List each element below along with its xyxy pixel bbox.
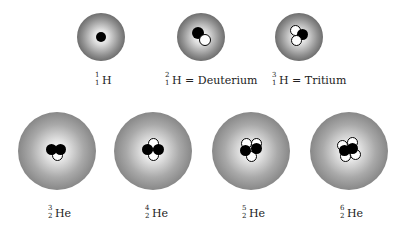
proton: [142, 144, 153, 155]
neutron: [291, 35, 302, 46]
label-h1: 11H: [94, 74, 112, 87]
atom-he5: [212, 112, 290, 190]
atom-h3: [275, 13, 323, 61]
atom-he6: [310, 112, 388, 190]
label-he5: 52He: [241, 207, 265, 220]
atom-he4: [114, 112, 192, 190]
proton: [55, 144, 66, 155]
label-he4: 42He: [144, 207, 168, 220]
proton: [347, 143, 358, 154]
label-h2-deuterium: 21H = Deuterium: [164, 74, 257, 87]
label-h3-tritium: 31H = Tritium: [271, 74, 346, 87]
proton: [251, 143, 262, 154]
label-he6: 62He: [339, 207, 363, 220]
proton: [240, 145, 251, 156]
atom-he3: [18, 112, 96, 190]
proton: [96, 32, 106, 42]
label-he3: 32He: [47, 207, 71, 220]
atom-h2: [177, 13, 225, 61]
atom-h1: [77, 13, 125, 61]
neutron: [199, 34, 211, 46]
proton: [153, 144, 164, 155]
